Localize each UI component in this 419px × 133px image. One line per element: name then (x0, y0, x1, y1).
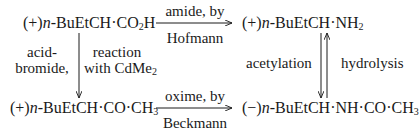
label-beckmann-above: oxime, by (156, 89, 234, 104)
formula-body: -BuEtCH·NH (270, 14, 359, 31)
prefix: n (262, 99, 270, 116)
prefix: n (30, 99, 38, 116)
label-reaction-line1: reaction (84, 45, 150, 60)
compound-ketone: (+)n-BuEtCH·CO·CH3 (10, 100, 158, 116)
label-acid-line1: acid- (10, 45, 74, 60)
formula-body: -BuEtCH·CO (51, 14, 139, 31)
label-acid-line2: bromide, (10, 61, 74, 76)
formula-tail: H (144, 14, 156, 31)
sign: (+) (242, 14, 262, 31)
label-beckmann-below: Beckmann (156, 116, 234, 131)
label-hydrolysis: hydrolysis (341, 56, 404, 71)
sign: (−) (242, 99, 262, 116)
label-hofmann-above: amide, by (156, 4, 234, 19)
prefix: n (43, 14, 51, 31)
sign: (+) (10, 99, 30, 116)
compound-acid: (+)n-BuEtCH·CO2H (23, 15, 155, 31)
subscript: 2 (152, 66, 157, 77)
subscript: 2 (359, 21, 364, 32)
label-acetylation: acetylation (246, 56, 312, 71)
compound-acetamide: (−)n-BuEtCH·NH·CO·CH3 (242, 100, 419, 116)
subscript: 3 (414, 106, 419, 117)
compound-amine: (+)n-BuEtCH·NH2 (242, 15, 364, 31)
sign: (+) (23, 14, 43, 31)
label-reaction-line2: with CdMe2 (84, 61, 150, 76)
reagent-text: with CdMe (84, 60, 152, 76)
prefix: n (262, 14, 270, 31)
formula-body: -BuEtCH·NH·CO·CH (270, 99, 414, 116)
label-hofmann-below: Hofmann (156, 31, 234, 46)
formula-body: -BuEtCH·CO·CH (38, 99, 154, 116)
